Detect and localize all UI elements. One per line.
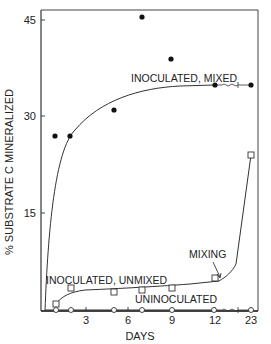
chart: 45 30 15 3 6 9 12 23 DAYS % SUBSTRATE C … (0, 0, 271, 344)
label-inoculated-mixed: INOCULATED, MIXED (131, 72, 237, 84)
x-tick-23: 23 (245, 314, 257, 326)
series-inoculated-mixed (45, 14, 254, 311)
label-mixing: MIXING (189, 248, 226, 260)
axis-break-squiggle-mixed (215, 84, 251, 86)
x-tick-6: 6 (125, 314, 131, 326)
y-axis-label: % SUBSTRATE C MINERALIZED (3, 89, 15, 255)
x-tick-3: 3 (83, 314, 89, 326)
label-uninoculated: UNINOCULATED (135, 293, 217, 305)
y-tick-30: 30 (24, 110, 36, 122)
x-tick-9: 9 (169, 314, 175, 326)
plot-frame (41, 10, 258, 311)
series-uninoculated (45, 307, 254, 313)
x-tick-12: 12 (209, 314, 221, 326)
label-inoculated-unmixed: INOCULATED, UNMIXED (46, 274, 168, 286)
x-axis-label: DAYS (125, 330, 154, 342)
y-tick-15: 15 (24, 207, 36, 219)
y-tick-45: 45 (24, 14, 36, 26)
